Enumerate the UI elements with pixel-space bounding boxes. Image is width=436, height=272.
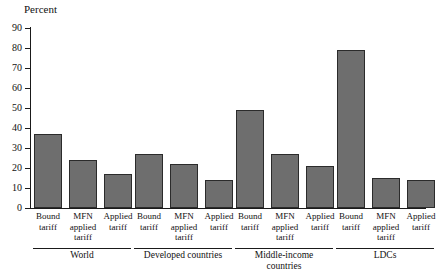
y-tick-label-20: 20 <box>2 163 22 173</box>
group-rule-middleincome <box>235 248 333 249</box>
bar-developed-bound <box>135 154 163 208</box>
y-tick-0 <box>25 208 30 209</box>
bar-middleincome-bound <box>236 110 264 208</box>
y-tick-label-80: 80 <box>2 43 22 53</box>
bar-developed-mfn <box>170 164 198 208</box>
x-label-ldcs-applied: Applied tariff <box>399 211 436 232</box>
y-tick-label-30: 30 <box>2 143 22 153</box>
bar-middleincome-applied <box>306 166 334 208</box>
x-axis-line <box>30 208 426 209</box>
bar-middleincome-mfn <box>271 154 299 208</box>
group-label-world: World <box>33 250 131 261</box>
bar-ldcs-bound <box>337 50 365 208</box>
y-tick-label-60: 60 <box>2 83 22 93</box>
group-label-ldcs: LDCs <box>336 250 434 261</box>
y-tick-label-0: 0 <box>2 203 22 213</box>
y-tick-label-70: 70 <box>2 63 22 73</box>
bar-ldcs-applied <box>407 180 435 208</box>
group-rule-developed <box>134 248 232 249</box>
y-tick-label-90: 90 <box>2 23 22 33</box>
y-axis-title: Percent <box>24 3 57 16</box>
bar-world-mfn <box>69 160 97 208</box>
group-rule-world <box>33 248 131 249</box>
group-rule-ldcs <box>336 248 434 249</box>
y-tick-label-10: 10 <box>2 183 22 193</box>
y-tick-label-50: 50 <box>2 103 22 113</box>
bar-world-bound <box>34 134 62 208</box>
group-label-middleincome: Middle-income countries <box>235 250 333 272</box>
bar-ldcs-mfn <box>372 178 400 208</box>
y-tick-label-40: 40 <box>2 123 22 133</box>
bar-developed-applied <box>205 180 233 208</box>
bar-world-applied <box>104 174 132 208</box>
bar-chart: Percent 90 80 70 60 50 40 30 20 10 0 Bou… <box>0 0 436 272</box>
group-label-developed: Developed countries <box>134 250 232 261</box>
plot-area <box>30 28 426 208</box>
